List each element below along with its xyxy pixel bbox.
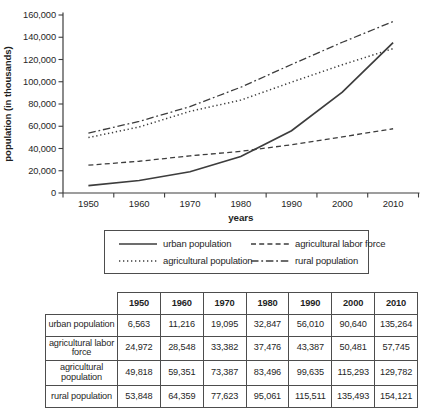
value-cell: 24,972 (118, 336, 161, 361)
value-cell: 135,493 (332, 386, 375, 408)
year-column-header: 2000 (332, 293, 375, 315)
legend-label: agricultural labor force (295, 238, 385, 249)
dashdot-line-sample-icon (250, 256, 290, 266)
value-cell: 77,623 (203, 386, 246, 408)
x-tick-label: 2000 (332, 198, 353, 209)
value-cell: 135,264 (375, 314, 418, 336)
value-cell: 33,382 (203, 336, 246, 361)
row-label: urban population (46, 314, 118, 336)
value-cell: 64,359 (160, 386, 203, 408)
legend-item-rural-population: rural population (250, 255, 385, 266)
chart-legend: urban populationagricultural labor force… (104, 230, 369, 274)
legend-item-agricultural-population: agricultural population (118, 255, 250, 266)
value-cell: 115,511 (289, 386, 332, 408)
value-cell: 32,847 (246, 314, 289, 336)
series-line-agricultural-population (88, 49, 393, 138)
x-tick-label: 1980 (230, 198, 251, 209)
value-cell: 50,481 (332, 336, 375, 361)
year-column-header: 1970 (203, 293, 246, 315)
y-tick-label: 80,000 (28, 99, 56, 109)
y-tick-label: 160,000 (23, 10, 56, 20)
value-cell: 43,387 (289, 336, 332, 361)
table-row-agricultural-labor-force: agricultural labor force24,97228,54833,3… (46, 336, 418, 361)
value-cell: 37,476 (246, 336, 289, 361)
value-cell: 90,640 (332, 314, 375, 336)
row-label: rural population (46, 386, 118, 408)
y-tick-label: 40,000 (28, 144, 56, 154)
value-cell: 28,548 (160, 336, 203, 361)
x-tick-label: 1960 (129, 198, 150, 209)
year-column-header: 1990 (289, 293, 332, 315)
value-cell: 53,848 (118, 386, 161, 408)
table-corner-blank (46, 293, 118, 315)
legend-item-urban-population: urban population (118, 238, 250, 249)
value-cell: 83,496 (246, 361, 289, 386)
value-cell: 154,121 (375, 386, 418, 408)
y-tick-label: 0 (51, 188, 56, 198)
x-tick-label: 1990 (281, 198, 302, 209)
value-cell: 57,745 (375, 336, 418, 361)
series-line-rural-population (88, 22, 393, 134)
legend-label: urban population (163, 238, 231, 249)
row-label: agricultural population (46, 361, 118, 386)
value-cell: 95,061 (246, 386, 289, 408)
value-cell: 129,782 (375, 361, 418, 386)
table-row-urban-population: urban population6,56311,21619,09532,8475… (46, 314, 418, 336)
dotted-line-sample-icon (118, 256, 158, 266)
y-tick-label: 60,000 (28, 121, 56, 131)
legend-label: agricultural population (163, 255, 253, 266)
value-cell: 115,293 (332, 361, 375, 386)
table-header-row: 1950196019701980199020002010 (46, 293, 418, 315)
x-axis-title: years (228, 212, 254, 223)
population-figure: 020,00040,00060,00080,000100,000120,0001… (0, 0, 427, 411)
year-column-header: 1960 (160, 293, 203, 315)
value-cell: 99,635 (289, 361, 332, 386)
dashed-line-sample-icon (250, 239, 290, 249)
series-line-agricultural-labor-force (88, 129, 393, 165)
y-axis-title: population (in thousands) (2, 46, 13, 161)
population-data-table: 1950196019701980199020002010urban popula… (45, 292, 418, 408)
year-column-header: 1980 (246, 293, 289, 315)
series-line-urban-population (88, 43, 393, 186)
value-cell: 59,351 (160, 361, 203, 386)
value-cell: 6,563 (118, 314, 161, 336)
solid-line-sample-icon (118, 239, 158, 249)
value-cell: 11,216 (160, 314, 203, 336)
value-cell: 19,095 (203, 314, 246, 336)
legend-item-agricultural-labor-force: agricultural labor force (250, 238, 385, 249)
x-tick-label: 2010 (383, 198, 404, 209)
value-cell: 73,387 (203, 361, 246, 386)
x-tick-label: 1950 (78, 198, 99, 209)
legend-label: rural population (295, 255, 358, 266)
year-column-header: 2010 (375, 293, 418, 315)
population-line-chart: 020,00040,00060,00080,000100,000120,0001… (0, 0, 427, 225)
x-tick-label: 1970 (180, 198, 201, 209)
row-label: agricultural labor force (46, 336, 118, 361)
y-tick-label: 20,000 (28, 166, 56, 176)
y-tick-label: 100,000 (23, 77, 56, 87)
value-cell: 49,818 (118, 361, 161, 386)
table-row-agricultural-population: agricultural population49,81859,35173,38… (46, 361, 418, 386)
y-tick-label: 140,000 (23, 32, 56, 42)
value-cell: 56,010 (289, 314, 332, 336)
table-row-rural-population: rural population53,84864,35977,62395,061… (46, 386, 418, 408)
y-tick-label: 120,000 (23, 55, 56, 65)
year-column-header: 1950 (118, 293, 161, 315)
